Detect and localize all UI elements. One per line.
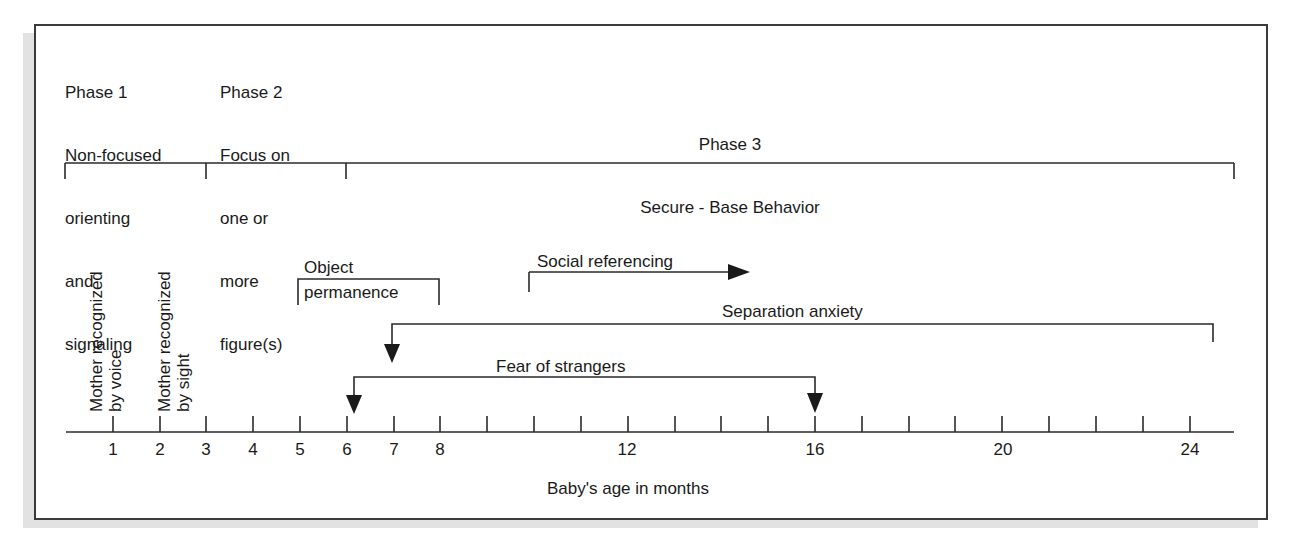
fear-of-strangers-label: Fear of strangers <box>496 357 625 376</box>
tick-label-24: 24 <box>1181 440 1200 459</box>
object-permanence-label-1: Object <box>304 258 353 277</box>
tick-label-16: 16 <box>806 440 825 459</box>
tick-label-7: 7 <box>389 440 398 459</box>
milestone-sight-line1: Mother recognized <box>155 271 174 412</box>
tick-label-1: 1 <box>108 440 117 459</box>
x-axis-tick-labels: 1 2 3 4 5 6 7 8 12 16 20 24 <box>108 440 1199 459</box>
separation-anxiety-bracket <box>392 324 1213 346</box>
tick-label-20: 20 <box>994 440 1013 459</box>
phase-bracket <box>65 163 1234 179</box>
social-referencing-label: Social referencing <box>537 252 673 271</box>
tick-label-4: 4 <box>248 440 257 459</box>
milestone-voice-line2: by voice <box>106 350 125 412</box>
tick-label-6: 6 <box>342 440 351 459</box>
tick-label-5: 5 <box>295 440 304 459</box>
fear-strangers-left-arrowhead-icon <box>346 395 362 414</box>
milestone-sight-line2: by sight <box>174 353 193 412</box>
fear-of-strangers-bracket <box>354 377 815 396</box>
object-permanence-label-2: permanence <box>304 283 399 302</box>
arrowheads <box>346 264 823 414</box>
milestone-voice-line1: Mother recognized <box>87 271 106 412</box>
timeline-diagram: Mother recognized by voice Mother recogn… <box>0 0 1292 548</box>
tick-label-8: 8 <box>435 440 444 459</box>
x-axis-ticks <box>113 416 1190 432</box>
social-referencing-arrow <box>529 272 730 292</box>
tick-label-2: 2 <box>155 440 164 459</box>
x-axis-title: Baby's age in months <box>547 479 709 498</box>
tick-label-3: 3 <box>201 440 210 459</box>
separation-anxiety-arrowhead-icon <box>384 344 400 363</box>
fear-strangers-right-arrowhead-icon <box>807 393 823 413</box>
tick-label-12: 12 <box>618 440 637 459</box>
social-referencing-arrowhead-icon <box>728 264 750 280</box>
separation-anxiety-label: Separation anxiety <box>722 302 863 321</box>
